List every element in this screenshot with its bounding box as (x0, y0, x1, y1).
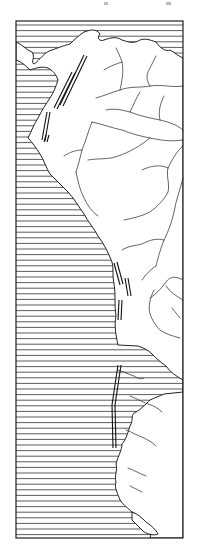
fault-mark (112, 365, 121, 405)
top-text-fragments (104, 2, 171, 5)
text-fragment (166, 2, 171, 5)
text-fragment (104, 2, 108, 5)
map-figure (0, 0, 198, 551)
map-canvas (0, 0, 198, 551)
